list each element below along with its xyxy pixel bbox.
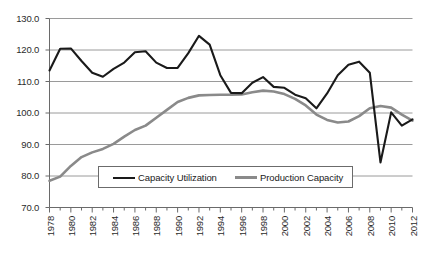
x-tick-label: 1992 — [194, 216, 205, 236]
gridlines-group — [50, 19, 413, 177]
x-tick-label: 2010 — [386, 216, 397, 236]
legend-item-production-capacity: Production Capacity — [235, 171, 343, 184]
x-tick-label: 1990 — [173, 216, 184, 236]
x-tick-label: 1980 — [66, 216, 77, 236]
series-line-capacity-utilization — [50, 36, 413, 163]
x-tick-label: 1988 — [151, 216, 162, 236]
x-tick-label: 1978 — [45, 216, 56, 236]
legend-swatch-capacity-utilization — [113, 177, 135, 179]
chart-container: 130.0120.0110.0100.090.080.070.0 1978198… — [0, 0, 430, 253]
y-tick-label: 110.0 — [5, 76, 39, 87]
x-tick-label: 2006 — [343, 216, 354, 236]
data-series-group — [50, 36, 413, 181]
x-tick-label: 1998 — [258, 216, 269, 236]
x-tick-marks-group — [50, 208, 413, 213]
legend-swatch-production-capacity — [235, 176, 257, 179]
legend-label-capacity-utilization: Capacity Utilization — [138, 172, 217, 183]
x-tick-label: 2000 — [279, 216, 290, 236]
y-tick-label: 130.0 — [5, 13, 39, 24]
x-tick-label: 1996 — [237, 216, 248, 236]
y-tick-label: 90.0 — [5, 139, 39, 150]
legend-label-production-capacity: Production Capacity — [260, 172, 343, 183]
x-tick-label: 1994 — [215, 216, 226, 236]
legend-item-capacity-utilization: Capacity Utilization — [113, 171, 217, 184]
y-tick-label: 100.0 — [5, 107, 39, 118]
y-tick-label: 70.0 — [5, 202, 39, 213]
x-tick-label: 2002 — [301, 216, 312, 236]
x-tick-label: 1986 — [130, 216, 141, 236]
x-tick-label: 2008 — [365, 216, 376, 236]
y-tick-label: 120.0 — [5, 44, 39, 55]
chart-legend: Capacity Utilization Production Capacity — [98, 166, 353, 188]
x-tick-label: 2004 — [322, 216, 333, 236]
x-tick-label: 2012 — [408, 216, 419, 236]
y-tick-marks-group — [46, 19, 50, 208]
x-tick-label: 1984 — [109, 216, 120, 236]
y-tick-label: 80.0 — [5, 170, 39, 181]
x-tick-label: 1982 — [87, 216, 98, 236]
